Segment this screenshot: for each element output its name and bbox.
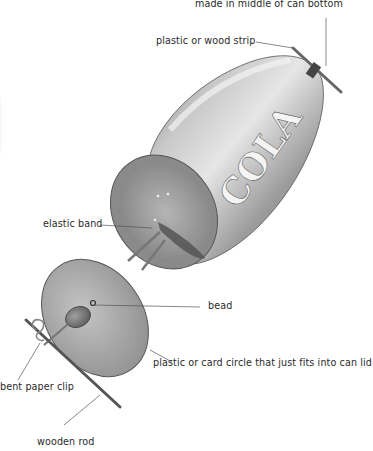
cola-can: COLA (89, 56, 324, 290)
label-hole: made in middle of can bottom (195, 0, 343, 9)
label-paper-clip: bent paper clip (0, 381, 74, 392)
label-wooden-rod: wooden rod (37, 436, 94, 447)
label-strip: plastic or wood strip (156, 35, 256, 46)
label-bead: bead (208, 300, 232, 311)
label-elastic-band: elastic band (43, 218, 103, 229)
left-edge-shape (0, 87, 4, 163)
label-card-circle: plastic or card circle that just fits in… (153, 357, 372, 368)
